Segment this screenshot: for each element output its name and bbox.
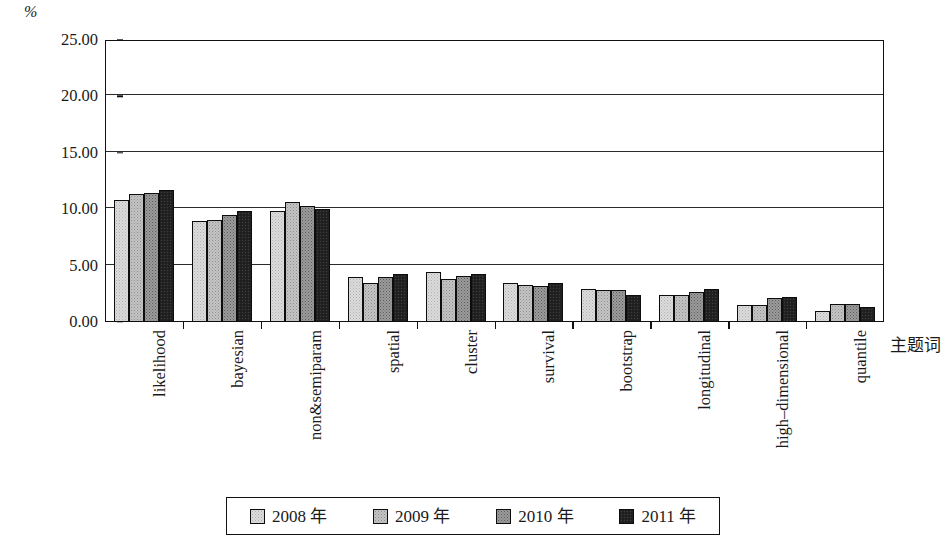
- y-axis-tick-label: 25.00: [24, 32, 98, 49]
- legend-label: 2011 年: [641, 508, 696, 525]
- y-axis-tick-label: 15.00: [24, 145, 98, 162]
- x-axis-category-label: non&semiparam: [300, 330, 317, 440]
- bar: [144, 193, 159, 322]
- x-axis-tick-mark: [183, 322, 184, 329]
- bar: [378, 277, 393, 322]
- x-axis-tick-mark: [650, 322, 651, 329]
- x-axis-category-labels: likelihoodbayesiannon&semiparamspatialcl…: [105, 330, 884, 490]
- legend-item: 2008 年: [250, 508, 327, 525]
- x-axis-category-label: survival: [533, 330, 550, 383]
- x-axis-category-label: spatial: [378, 330, 395, 373]
- legend-item: 2010 年: [496, 508, 573, 525]
- bar-group: [814, 40, 876, 322]
- bar: [581, 289, 596, 322]
- bar: [315, 209, 330, 322]
- legend-swatch-icon: [373, 509, 388, 524]
- bar: [129, 194, 144, 322]
- bar: [767, 298, 782, 322]
- bar: [159, 190, 174, 322]
- x-axis-category-label: bayesian: [222, 330, 239, 388]
- bar: [533, 286, 548, 322]
- bar-series-layer: [105, 40, 884, 322]
- bar: [752, 305, 767, 322]
- bar-group: [658, 40, 720, 322]
- bar: [114, 200, 129, 322]
- bar: [503, 283, 518, 322]
- bar: [596, 290, 611, 322]
- bar: [830, 304, 845, 322]
- bar: [285, 202, 300, 322]
- x-axis-tick-mark: [806, 322, 807, 329]
- x-axis-title: 主题词: [890, 337, 941, 354]
- legend-item: 2011 年: [619, 508, 696, 525]
- bar: [300, 206, 315, 322]
- bar: [393, 274, 408, 323]
- x-axis-tick-mark: [572, 322, 573, 329]
- bar-group: [580, 40, 642, 322]
- x-axis-tick-mark: [728, 322, 729, 329]
- bar: [689, 292, 704, 322]
- bar: [270, 211, 285, 322]
- legend-swatch-icon: [250, 509, 265, 524]
- x-axis-category-label: likelihood: [144, 330, 161, 397]
- bar: [222, 215, 237, 322]
- x-axis-category-label: high–dimensional: [767, 330, 784, 448]
- x-axis-tick-mark: [261, 322, 262, 329]
- y-axis-ticks: 0.005.0010.0015.0020.0025.00: [18, 40, 98, 322]
- bar: [363, 283, 378, 322]
- legend-swatch-icon: [619, 509, 634, 524]
- bar: [626, 295, 641, 322]
- y-axis-tick-label: 5.00: [24, 257, 98, 274]
- legend-swatch-icon: [496, 509, 511, 524]
- bar: [611, 290, 626, 322]
- bar: [518, 285, 533, 322]
- bar-group: [269, 40, 331, 322]
- bar: [782, 297, 797, 322]
- legend-label: 2010 年: [518, 508, 573, 525]
- bar: [426, 272, 441, 322]
- legend-item: 2009 年: [373, 508, 450, 525]
- bar: [674, 295, 689, 322]
- bar: [207, 220, 222, 322]
- x-axis-category-label: longitudinal: [689, 330, 706, 410]
- bar-group: [113, 40, 175, 322]
- bar-chart-figure: % 0.005.0010.0015.0020.0025.00 likelihoo…: [0, 0, 946, 535]
- bar: [471, 274, 486, 323]
- legend-label: 2008 年: [272, 508, 327, 525]
- x-axis-category-label: quantile: [845, 330, 862, 383]
- x-axis-ticks: [105, 322, 884, 330]
- bar-group: [736, 40, 798, 322]
- bar: [348, 277, 363, 322]
- y-axis-unit-label: %: [24, 4, 37, 20]
- y-axis-tick-label: 20.00: [24, 88, 98, 105]
- bar: [192, 221, 207, 322]
- bar: [456, 276, 471, 322]
- y-axis-tick-label: 10.00: [24, 201, 98, 218]
- bar: [659, 295, 674, 322]
- x-axis-tick-mark: [339, 322, 340, 329]
- bar: [845, 304, 860, 322]
- bar-group: [191, 40, 253, 322]
- bar-group: [347, 40, 409, 322]
- bar: [548, 283, 563, 322]
- y-axis-tick-label: 0.00: [24, 314, 98, 331]
- chart-legend: 2008 年2009 年2010 年2011 年: [226, 497, 720, 535]
- bar-group: [425, 40, 487, 322]
- x-axis-tick-mark: [417, 322, 418, 329]
- bar: [704, 289, 719, 322]
- bar-group: [502, 40, 564, 322]
- x-axis-category-label: bootstrap: [611, 330, 628, 391]
- bar: [237, 211, 252, 322]
- x-axis-tick-mark: [495, 322, 496, 329]
- bar: [815, 311, 830, 322]
- legend-label: 2009 年: [395, 508, 450, 525]
- bar: [737, 305, 752, 322]
- bar: [441, 279, 456, 322]
- x-axis-category-label: cluster: [456, 330, 473, 374]
- bar: [860, 307, 875, 322]
